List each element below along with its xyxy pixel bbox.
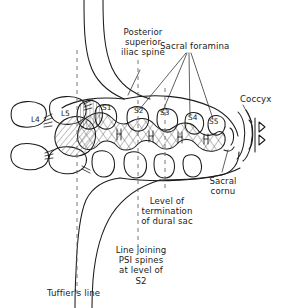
l4-transverse-process-upper — [11, 102, 46, 128]
vertebra-label-s4: S4 — [188, 114, 197, 122]
callout-dural-sac: Level of termination of dural sac — [129, 196, 205, 227]
leader-foramina-s5 — [191, 53, 213, 119]
sacral-foramina-lower-row — [92, 151, 202, 178]
leader-coccyx — [243, 105, 252, 122]
vertebra-label-s1: S1 — [102, 104, 111, 112]
leader-foramina-s2 — [139, 53, 186, 110]
vertebra-label-s3: S3 — [160, 109, 169, 117]
l4-transverse-process-lower — [11, 144, 49, 170]
leader-psis — [128, 70, 140, 95]
callout-sacral-foramina: Sacral foramina — [160, 41, 229, 51]
vertebra-label-l4: L4 — [31, 116, 40, 124]
leader-foramina-s4 — [189, 53, 190, 116]
leader-sacral-cornu — [222, 150, 228, 172]
callout-coccyx: Coccyx — [240, 94, 271, 104]
coccyx-structure — [237, 110, 265, 161]
callout-sacral-cornu: Sacral cornu — [199, 176, 247, 196]
vertebra-label-s2: S2 — [134, 107, 143, 115]
callout-tuffiers-line: Tuffier's line — [47, 288, 100, 298]
vertebra-label-l5: L5 — [61, 110, 70, 118]
vertebra-label-s5: S5 — [209, 118, 218, 126]
leader-foramina-s3 — [162, 53, 187, 113]
figure-canvas: Posterior superior iliac spine Sacral fo… — [0, 0, 283, 308]
callout-psi-line: Line joining PSI spines at level of S2 — [103, 245, 179, 286]
